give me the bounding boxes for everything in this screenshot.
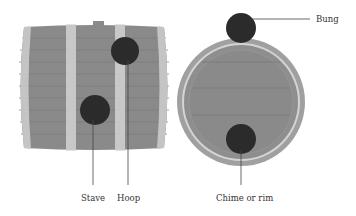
barrel-body <box>21 25 168 150</box>
hoop-band-left <box>66 25 76 151</box>
chime-marker <box>226 124 256 154</box>
hoop-label: Hoop <box>117 193 140 203</box>
hoop-marker <box>111 37 139 65</box>
stave-marker <box>80 95 110 125</box>
barrel-top-view <box>177 13 310 185</box>
stave-label: Stave <box>81 193 105 203</box>
bung-label: Bung <box>316 14 339 24</box>
chime-label: Chime or rim <box>216 193 273 203</box>
bung-marker <box>226 13 256 43</box>
barrel-diagram <box>0 0 356 216</box>
barrel-side-view <box>19 21 169 185</box>
